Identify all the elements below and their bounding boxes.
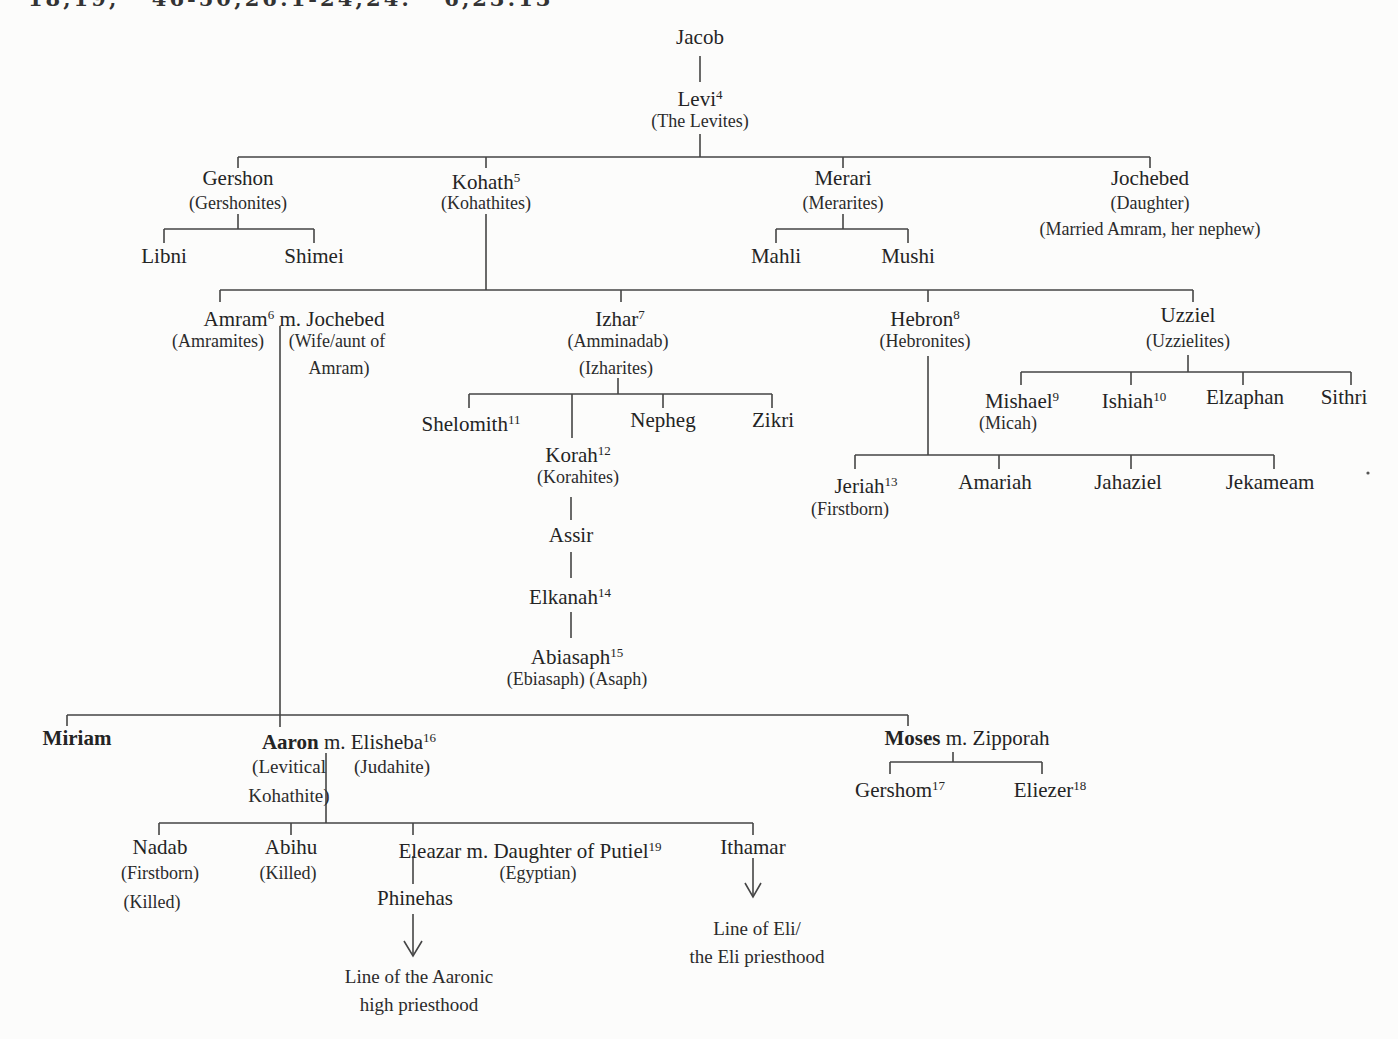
person-ishiah: Ishiah10 bbox=[1102, 386, 1166, 412]
footnote-sup: 12 bbox=[598, 443, 611, 458]
footnote-sup: 11 bbox=[508, 412, 521, 427]
person-nepheg: Nepheg bbox=[630, 409, 695, 431]
spouse-text: m. Zipporah bbox=[940, 726, 1049, 750]
levite-genealogy-diagram: 18,19; 46-50;26:1-24;24: 6,23:13 bbox=[0, 0, 1398, 1039]
person-aaron-sublabel3: Kohathite) bbox=[248, 785, 329, 807]
person-nadab: Nadab bbox=[133, 836, 188, 858]
person-amram-wife-note2: Amram) bbox=[309, 358, 370, 378]
person-amariah: Amariah bbox=[958, 471, 1031, 493]
name-text: Nepheg bbox=[630, 408, 695, 432]
person-shelomith: Shelomith11 bbox=[422, 409, 521, 435]
person-amram: Amram6 m. Jochebed bbox=[204, 304, 385, 330]
person-phinehas: Phinehas bbox=[377, 887, 453, 909]
name-text: Amariah bbox=[958, 470, 1031, 494]
person-uzziel: Uzziel bbox=[1161, 304, 1216, 326]
person-jahaziel: Jahaziel bbox=[1094, 471, 1162, 493]
name-text: Sithri bbox=[1321, 385, 1368, 409]
footnote-sup: 5 bbox=[514, 170, 521, 185]
name-text: Shimei bbox=[284, 244, 344, 268]
name-text: Miriam bbox=[43, 726, 112, 750]
stray-ink-speck bbox=[1366, 471, 1369, 474]
name-text: Libni bbox=[141, 244, 187, 268]
person-jekameam: Jekameam bbox=[1226, 471, 1315, 493]
name-text: Jochebed bbox=[1111, 166, 1189, 190]
person-hebron-sublabel: (Hebronites) bbox=[880, 331, 971, 351]
name-text: Amram bbox=[204, 307, 268, 331]
name-text: Abihu bbox=[265, 835, 318, 859]
person-aaron-sublabel1: (Levitical bbox=[252, 756, 326, 778]
person-jacob: Jacob bbox=[676, 26, 724, 48]
person-korah: Korah12 bbox=[545, 440, 610, 466]
person-shimei: Shimei bbox=[284, 245, 344, 267]
clipped-reference-text: 18,19; 46-50;26:1-24;24: 6,23:13 bbox=[28, 0, 553, 11]
person-amram-sublabel: (Amramites) bbox=[172, 331, 264, 351]
footnote-sup: 16 bbox=[423, 730, 436, 745]
person-jeriah-sublabel: (Firstborn) bbox=[811, 499, 889, 519]
person-kohath-sublabel: (Kohathites) bbox=[441, 193, 531, 213]
person-sithri: Sithri bbox=[1321, 386, 1368, 408]
person-aaron-sublabel2: (Judahite) bbox=[354, 756, 430, 778]
name-text: Gershom bbox=[855, 778, 932, 802]
person-eleazar-sublabel: (Egyptian) bbox=[500, 863, 577, 883]
person-abihu: Abihu bbox=[265, 836, 318, 858]
name-text: Kohath bbox=[452, 170, 514, 194]
name-text: Jekameam bbox=[1226, 470, 1315, 494]
person-mishael-sublabel: (Micah) bbox=[979, 413, 1037, 433]
person-assir: Assir bbox=[549, 524, 593, 546]
name-text: Aaron bbox=[262, 730, 319, 754]
name-text: Gershon bbox=[202, 166, 273, 190]
spouse-text: m. Jochebed bbox=[274, 307, 384, 331]
name-text: Uzziel bbox=[1161, 303, 1216, 327]
footnote-sup: 7 bbox=[638, 307, 645, 322]
person-mushi: Mushi bbox=[881, 245, 935, 267]
name-text: Levi bbox=[678, 87, 716, 111]
aaronic-priesthood-note-line2: high priesthood bbox=[360, 994, 479, 1016]
footnote-sup: 19 bbox=[649, 839, 662, 854]
person-izhar-sublabel2: (Izharites) bbox=[579, 358, 653, 378]
footnote-sup: 9 bbox=[1053, 389, 1060, 404]
person-nadab-sublabel1: (Firstborn) bbox=[121, 863, 199, 883]
name-text: Eleazar bbox=[398, 839, 461, 863]
footnote-sup: 4 bbox=[716, 87, 723, 102]
footnote-sup: 8 bbox=[953, 307, 960, 322]
person-mishael: Mishael9 bbox=[985, 386, 1059, 412]
person-kohath: Kohath5 bbox=[452, 167, 520, 193]
person-hebron: Hebron8 bbox=[890, 304, 959, 330]
name-text: Izhar bbox=[595, 307, 638, 331]
footnote-sup: 10 bbox=[1153, 389, 1166, 404]
footnote-sup: 13 bbox=[885, 474, 898, 489]
name-text: Ithamar bbox=[720, 835, 785, 859]
person-gershon: Gershon bbox=[202, 167, 273, 189]
footnote-sup: 14 bbox=[598, 585, 611, 600]
person-aaron: Aaron m. Elisheba16 bbox=[262, 727, 436, 753]
name-text: Elzaphan bbox=[1206, 385, 1284, 409]
person-nadab-sublabel2: (Killed) bbox=[124, 892, 181, 912]
name-text: Mishael bbox=[985, 389, 1053, 413]
person-abiasaph: Abiasaph15 bbox=[531, 642, 623, 668]
person-miriam: Miriam bbox=[43, 727, 112, 749]
person-merari-sublabel: (Merarites) bbox=[803, 193, 884, 213]
name-text: Mahli bbox=[751, 244, 801, 268]
person-jochebed: Jochebed bbox=[1111, 167, 1189, 189]
person-jeriah: Jeriah13 bbox=[834, 471, 897, 497]
name-text: Moses bbox=[884, 726, 940, 750]
name-text: Jeriah bbox=[834, 474, 884, 498]
name-text: Zikri bbox=[752, 408, 794, 432]
name-text: Mushi bbox=[881, 244, 935, 268]
name-text: Merari bbox=[814, 166, 871, 190]
aaronic-priesthood-note-line1: Line of the Aaronic bbox=[345, 966, 493, 988]
eli-priesthood-note-line1: Line of Eli/ bbox=[713, 918, 801, 940]
name-text: Jacob bbox=[676, 25, 724, 49]
person-jochebed-sublabel2: (Married Amram, her nephew) bbox=[1040, 219, 1261, 239]
person-gershom: Gershom17 bbox=[855, 775, 945, 801]
person-abiasaph-sublabel: (Ebiasaph) (Asaph) bbox=[507, 669, 647, 689]
down-arrow-aaronic-line-icon bbox=[404, 914, 422, 956]
person-korah-sublabel: (Korahites) bbox=[537, 467, 619, 487]
person-elkanah: Elkanah14 bbox=[529, 582, 611, 608]
person-ithamar: Ithamar bbox=[720, 836, 785, 858]
name-text: Korah bbox=[545, 443, 597, 467]
person-mahli: Mahli bbox=[751, 245, 801, 267]
spouse-text: m. Elisheba bbox=[319, 730, 423, 754]
name-text: Eliezer bbox=[1014, 778, 1073, 802]
person-moses: Moses m. Zipporah bbox=[884, 727, 1049, 749]
